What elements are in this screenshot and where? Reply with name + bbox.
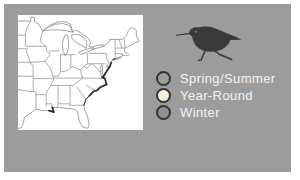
great-lakes (43, 23, 122, 60)
year-round-label: Year-Round (180, 88, 253, 103)
winter-label: Winter (180, 105, 220, 120)
legend-item-winter: Winter (156, 105, 276, 120)
figure-frame: Spring/Summer Year-Round Winter (0, 0, 300, 180)
winter-marker-icon (156, 105, 171, 120)
legend-item-spring-summer: Spring/Summer (156, 71, 276, 86)
eastern-us-map (18, 15, 143, 130)
bird-eye (195, 31, 197, 33)
figure-panel: Spring/Summer Year-Round Winter (4, 4, 291, 172)
range-map-box (18, 15, 143, 130)
bird-legs (198, 51, 231, 60)
spring-summer-label: Spring/Summer (180, 71, 276, 86)
state-borders (18, 21, 125, 109)
legend-item-year-round: Year-Round (156, 88, 276, 103)
spring-summer-marker-icon (156, 71, 171, 86)
season-legend: Spring/Summer Year-Round Winter (156, 71, 276, 122)
coastline (18, 17, 139, 129)
sandpiper-icon (176, 23, 243, 61)
year-round-marker-icon (156, 88, 171, 103)
bird-body (176, 26, 242, 51)
